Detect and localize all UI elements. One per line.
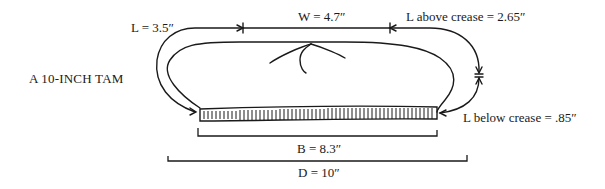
b-bracket	[198, 128, 437, 136]
l-below-arc	[440, 78, 479, 113]
label-l-below-crease: L below crease = .85″	[463, 111, 577, 124]
label-d: D = 10″	[298, 166, 340, 179]
l-arc	[157, 28, 243, 112]
tam-drawing	[0, 0, 605, 189]
diagram-title: A 10-INCH TAM	[29, 72, 124, 85]
label-b: B = 8.3″	[297, 142, 341, 155]
label-l: L = 3.5″	[131, 21, 174, 34]
label-l-above-crease: L above crease = 2.65″	[406, 10, 525, 23]
tassel-icon	[300, 44, 311, 73]
tam-outline	[167, 42, 453, 112]
label-w: W = 4.7″	[298, 10, 346, 23]
l-above-arc	[391, 28, 479, 72]
